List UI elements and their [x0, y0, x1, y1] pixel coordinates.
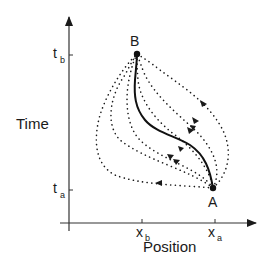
path-integral-diagram: Time Position t b t a x b x a: [0, 0, 268, 269]
point-b: [134, 51, 140, 57]
svg-text:b: b: [60, 55, 65, 65]
axes: [60, 17, 256, 231]
svg-text:a: a: [217, 233, 222, 243]
svg-text:a: a: [60, 190, 65, 200]
svg-text:x: x: [136, 224, 143, 240]
tick-label-tb: t b: [53, 45, 65, 65]
svg-text:b: b: [145, 233, 150, 243]
point-a-label: A: [208, 194, 218, 210]
arrow-icon: [167, 154, 174, 160]
arrow-icon: [178, 146, 184, 152]
classical-path: [135, 54, 213, 188]
arrow-icon: [155, 180, 162, 186]
y-axis-label: Time: [16, 115, 49, 132]
point-a: [210, 185, 216, 191]
svg-text:t: t: [53, 180, 57, 196]
svg-text:t: t: [53, 45, 57, 61]
dotted-path-right-mid: [137, 54, 217, 188]
tick-label-xa: x a: [208, 224, 222, 243]
svg-text:x: x: [208, 224, 215, 240]
dotted-path-left-inner: [127, 54, 213, 188]
arrow-icon: [192, 117, 199, 124]
direction-arrows: [155, 100, 207, 186]
tick-label-ta: t a: [53, 180, 65, 200]
dotted-path-right-inner: [137, 54, 213, 188]
arrow-icon: [200, 100, 207, 107]
point-b-label: B: [130, 33, 139, 49]
dotted-path-outer-right: [137, 54, 228, 188]
x-axis-label: Position: [143, 238, 196, 255]
